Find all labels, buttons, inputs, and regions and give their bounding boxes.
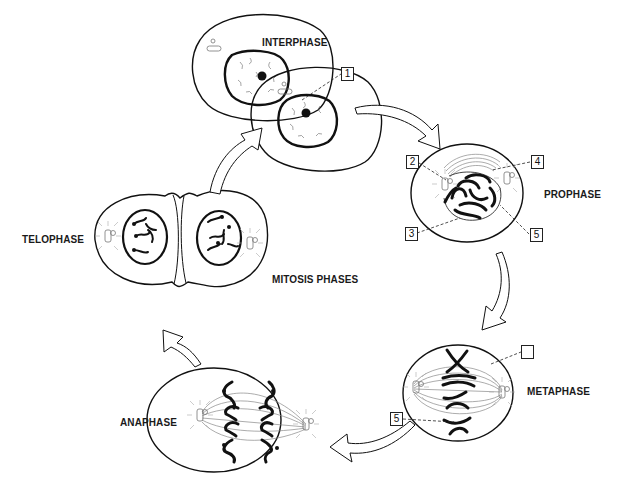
arrow-telophase-to-interphase bbox=[210, 128, 262, 194]
label-prophase: PROPHASE bbox=[544, 189, 601, 200]
label-anaphase: ANAPHASE bbox=[120, 417, 177, 428]
arrow-interphase-to-prophase bbox=[355, 105, 440, 149]
callout-1: 1 bbox=[341, 67, 354, 81]
mitosis-diagram: INTERPHASE PROPHASE METAPHASE ANAPHASE T… bbox=[0, 0, 623, 494]
interphase-cell-2 bbox=[251, 67, 382, 171]
arrow-prophase-to-metaphase bbox=[482, 252, 509, 330]
prophase-cell bbox=[411, 144, 530, 242]
callout-blank-metaphase[interactable] bbox=[521, 345, 534, 359]
label-interphase: INTERPHASE bbox=[262, 37, 327, 48]
telophase-cell bbox=[95, 191, 268, 287]
arrow-metaphase-to-anaphase bbox=[330, 421, 415, 462]
label-telophase: TELOPHASE bbox=[22, 234, 84, 245]
callout-4: 4 bbox=[531, 155, 544, 169]
label-metaphase: METAPHASE bbox=[527, 386, 590, 397]
callout-2: 2 bbox=[406, 155, 419, 169]
diagram-canvas bbox=[0, 0, 623, 494]
diagram-title: MITOSIS PHASES bbox=[272, 274, 358, 285]
metaphase-cell bbox=[403, 345, 521, 441]
callout-5-prophase: 5 bbox=[530, 228, 543, 242]
callout-5-metaphase: 5 bbox=[390, 412, 403, 426]
callout-3: 3 bbox=[405, 227, 418, 241]
